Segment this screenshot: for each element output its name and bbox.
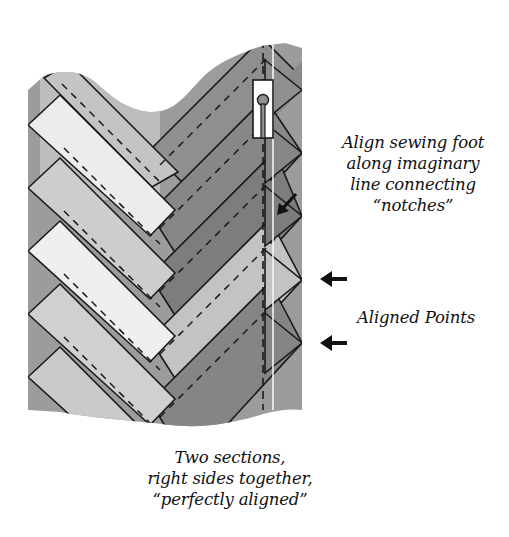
foot-instruction-label: Align sewing foot along imaginary line c… (318, 132, 508, 216)
foot-instruction-line-4: “notches” (318, 195, 508, 216)
foot-instruction-line-2: along imaginary (318, 153, 508, 174)
foot-instruction-line-3: line connecting (318, 174, 508, 195)
caption-line-1: Two sections, (120, 447, 340, 468)
left-arrow-icon (320, 335, 347, 351)
presser-foot-icon (253, 80, 273, 138)
foot-instruction-line-1: Align sewing foot (318, 132, 508, 153)
left-arrow-icon (320, 271, 347, 287)
aligned-points-label: Aligned Points (336, 307, 496, 328)
caption-line-3: “perfectly aligned” (120, 489, 340, 510)
aligned-points-text: Aligned Points (336, 307, 496, 328)
caption-line-2: right sides together, (120, 468, 340, 489)
caption: Two sections, right sides together, “per… (120, 447, 340, 510)
